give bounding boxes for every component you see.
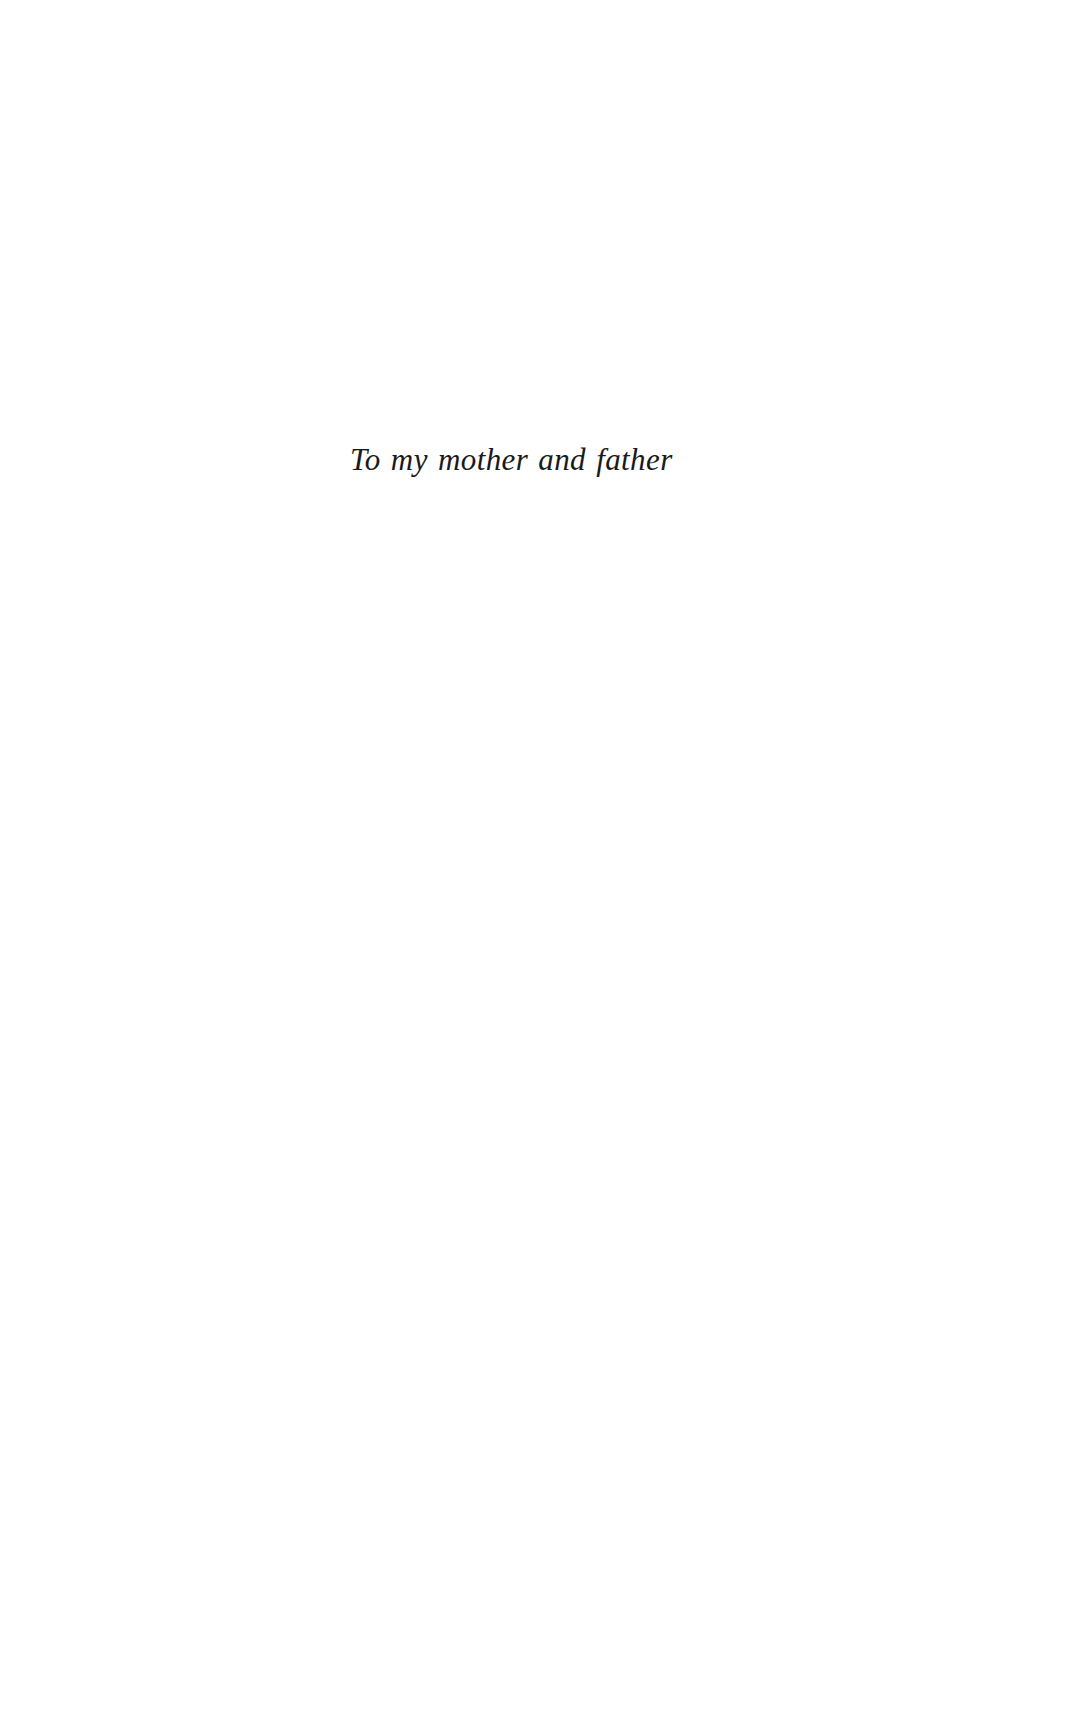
dedication-text: To my mother and father <box>350 440 673 480</box>
dedication-page: To my mother and father <box>0 0 1074 1716</box>
